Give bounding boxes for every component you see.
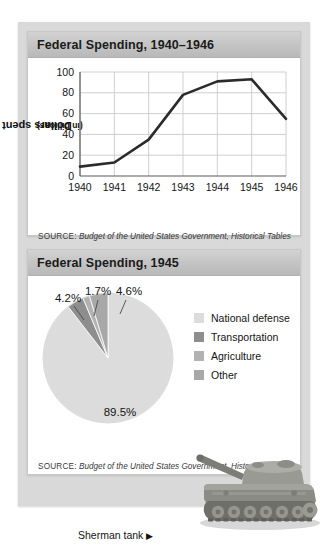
line-chart-body: Dollars spent (in billions) 020406080100… (28, 58, 300, 198)
line-chart-header: Federal Spending, 1940–1946 (28, 32, 300, 58)
legend-label: Other (211, 369, 237, 381)
photo-caption-text: Sherman tank (78, 529, 143, 541)
line-chart-title: Federal Spending, 1940–1946 (37, 38, 214, 52)
photo-caption: Sherman tank ▶ (78, 529, 153, 541)
svg-text:1944: 1944 (206, 181, 230, 193)
legend-label: Agriculture (211, 350, 261, 362)
pie-chart-source-label: SOURCE: (38, 462, 77, 471)
legend-item-other: Other (194, 369, 290, 381)
svg-text:20: 20 (62, 149, 74, 161)
svg-text:4.2%: 4.2% (55, 292, 81, 304)
svg-text:80: 80 (62, 86, 74, 98)
line-chart-source-label: SOURCE: (38, 232, 77, 241)
pie-chart-header: Federal Spending, 1945 (28, 250, 300, 276)
pie-chart-legend: National defenseTransportationAgricultur… (194, 312, 290, 381)
svg-text:40: 40 (62, 128, 74, 140)
line-chart-source-text: Budget of the United States Government, … (79, 232, 291, 241)
line-chart-card: Federal Spending, 1940–1946 Dollars spen… (27, 31, 301, 236)
svg-text:1943: 1943 (171, 181, 195, 193)
svg-text:1941: 1941 (103, 181, 127, 193)
pie-chart-card: Federal Spending, 1945 4.2%1.7%4.6%89.5%… (27, 249, 301, 475)
svg-text:89.5%: 89.5% (104, 406, 137, 418)
figure-root: Federal Spending, 1940–1946 Dollars spen… (0, 0, 328, 557)
svg-text:0: 0 (68, 170, 74, 182)
svg-text:4.6%: 4.6% (116, 285, 142, 297)
legend-swatch-icon (194, 332, 204, 342)
line-chart-svg: 0204060801001940194119421943194419451946 (48, 62, 298, 198)
svg-text:1940: 1940 (68, 181, 92, 193)
sherman-tank-photo (186, 443, 328, 533)
legend-label: National defense (211, 312, 290, 324)
legend-item-transportation: Transportation (194, 331, 290, 343)
svg-text:1946: 1946 (274, 181, 298, 193)
pie-chart-title: Federal Spending, 1945 (37, 256, 179, 270)
svg-text:1942: 1942 (137, 181, 161, 193)
legend-label: Transportation (211, 331, 278, 343)
legend-swatch-icon (194, 313, 204, 323)
line-chart-plot-area: Dollars spent (in billions) 020406080100… (28, 58, 302, 198)
legend-swatch-icon (194, 351, 204, 361)
legend-swatch-icon (194, 370, 204, 380)
svg-text:100: 100 (56, 66, 74, 78)
svg-text:1.7%: 1.7% (85, 285, 111, 297)
line-chart-source: SOURCE: Budget of the United States Gove… (38, 232, 292, 243)
caption-arrow-icon: ▶ (146, 531, 153, 541)
legend-item-national-defense: National defense (194, 312, 290, 324)
pie-chart-svg: 4.2%1.7%4.6%89.5% (34, 276, 194, 434)
legend-item-agriculture: Agriculture (194, 350, 290, 362)
svg-text:1945: 1945 (240, 181, 264, 193)
pie-chart-body: 4.2%1.7%4.6%89.5% National defenseTransp… (28, 276, 300, 436)
svg-text:60: 60 (62, 107, 74, 119)
pie-chart-plot-area: 4.2%1.7%4.6%89.5% National defenseTransp… (28, 276, 302, 436)
